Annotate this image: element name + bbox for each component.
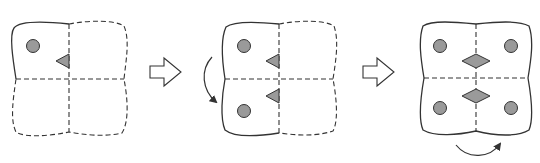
diamond-motif bbox=[462, 89, 490, 103]
triangle-motif-reflected bbox=[266, 89, 279, 103]
curved-rotation-arrow-icon bbox=[204, 57, 216, 102]
curved-rotation-arrow-icon bbox=[456, 144, 500, 155]
circle-motif bbox=[434, 40, 447, 53]
hollow-right-arrow-icon bbox=[150, 58, 181, 86]
triangle-motif bbox=[56, 54, 69, 68]
quadrant-right-dashed bbox=[279, 21, 337, 135]
circle-motif-reflected bbox=[238, 105, 251, 118]
circle-motif bbox=[505, 40, 518, 53]
circle-motif bbox=[27, 40, 40, 53]
circle-motif bbox=[238, 40, 251, 53]
quadrant-outline-dashed bbox=[13, 21, 128, 136]
hollow-right-arrow-icon bbox=[363, 58, 394, 86]
panel-step-2 bbox=[204, 21, 337, 135]
triangle-motif bbox=[266, 54, 279, 68]
panel-step-3 bbox=[420, 22, 531, 155]
diamond-motif bbox=[462, 54, 490, 68]
quadrant-top-left-solid bbox=[12, 22, 69, 79]
circle-motif bbox=[505, 102, 518, 115]
circle-motif bbox=[434, 102, 447, 115]
symmetry-diagram bbox=[0, 0, 540, 163]
panel-step-1 bbox=[12, 21, 128, 136]
